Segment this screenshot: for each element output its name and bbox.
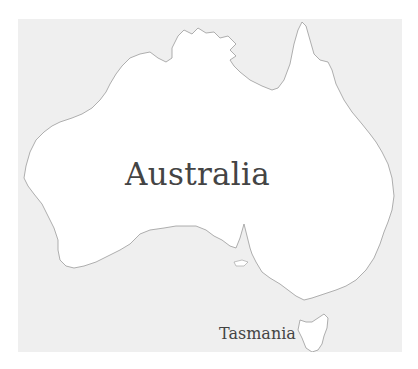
australia-label: Australia — [125, 159, 270, 190]
tasmania-label: Tasmania — [219, 326, 296, 342]
map-frame: Australia Tasmania — [18, 19, 402, 352]
